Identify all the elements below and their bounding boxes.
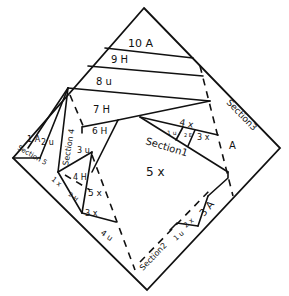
dash-section4 bbox=[70, 95, 84, 128]
line-9h-8u bbox=[88, 66, 203, 76]
label-section4: Section 4 bbox=[61, 128, 76, 166]
label-4u: 4 u bbox=[99, 228, 115, 243]
label-5x-main: 5 x bbox=[146, 165, 165, 179]
dash-section1-left bbox=[92, 155, 135, 270]
label-1u-bottom: 1 u bbox=[172, 229, 186, 242]
label-3x-top: 3 x bbox=[197, 133, 210, 142]
label-1a-left: 1 A bbox=[27, 135, 41, 144]
pattern-diagram: 10 A 9 H 8 u 7 H 6 H 4 x 1 u 2 E 3 x A S… bbox=[0, 0, 289, 296]
label-4x-top: 4 x bbox=[179, 117, 195, 130]
label-2h: 2 H bbox=[67, 190, 79, 202]
label-3a-bottom: 3 A bbox=[197, 199, 216, 219]
label-7h: 7 H bbox=[93, 104, 110, 115]
label-a-right: A bbox=[229, 140, 236, 151]
label-4h: 4 H bbox=[73, 173, 87, 182]
line-4h-5x bbox=[82, 152, 92, 213]
label-9h: 9 H bbox=[111, 54, 128, 65]
label-section1: Section1 bbox=[144, 135, 189, 158]
line-8u-7h bbox=[68, 88, 210, 101]
label-3x-left: 3 x bbox=[85, 209, 98, 218]
line-section1-right bbox=[208, 172, 228, 196]
label-2e: 2 E bbox=[184, 132, 192, 138]
label-3u: 3 u bbox=[77, 146, 90, 155]
label-2x-bottom: 2 x bbox=[182, 216, 195, 229]
label-8u: 8 u bbox=[96, 76, 112, 87]
label-5x-left: 5 x bbox=[88, 188, 103, 198]
outer-diamond bbox=[13, 8, 280, 290]
line-7h-lower bbox=[118, 101, 210, 120]
label-section2: Section2 bbox=[138, 241, 169, 272]
label-2u-left: 2 u bbox=[41, 138, 54, 147]
label-6h: 6 H bbox=[92, 126, 107, 136]
label-1u-top: 1 u bbox=[167, 129, 177, 136]
line-1u-2e bbox=[176, 127, 183, 140]
label-10a: 10 A bbox=[128, 37, 153, 50]
label-section3: Section3 bbox=[225, 97, 259, 132]
